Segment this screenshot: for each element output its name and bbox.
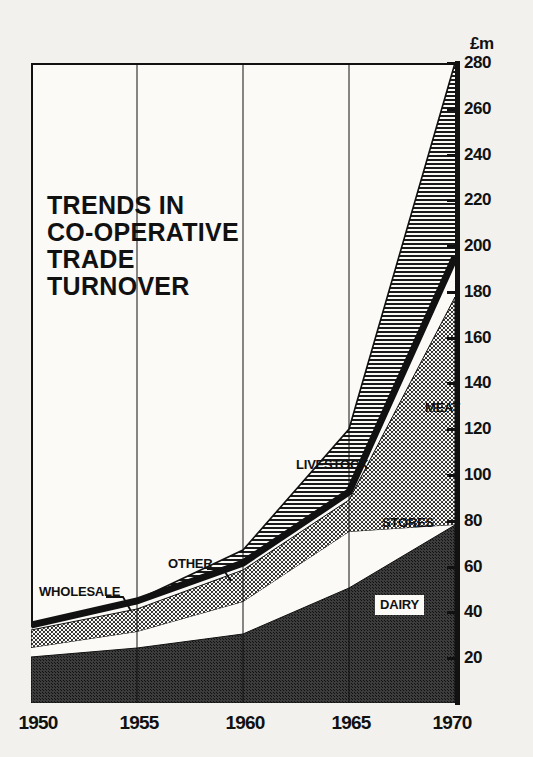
y-tick-20 — [447, 657, 456, 660]
y-tick-label-160: 160 — [464, 329, 491, 346]
y-tick-label-180: 180 — [464, 283, 491, 300]
y-tick-label-240: 240 — [464, 146, 491, 163]
y-tick-label-120: 120 — [464, 420, 491, 437]
chart-page: £m 280 260 240 220 200 180 160 140 120 1… — [0, 0, 533, 757]
y-tick-label-200: 200 — [464, 237, 491, 254]
y-tick-160 — [447, 337, 456, 340]
series-label-other: OTHER — [168, 556, 213, 571]
x-tick-label-1965: 1965 — [331, 712, 370, 734]
series-label-livestock: LIVESTOCK — [296, 457, 368, 472]
y-tick-label-20: 20 — [464, 649, 482, 666]
y-tick-label-280: 280 — [464, 54, 491, 71]
series-label-stores: STORES — [382, 515, 434, 530]
series-label-wholesale: WHOLESALE — [39, 584, 120, 599]
y-tick-label-80: 80 — [464, 512, 482, 529]
x-tick-label-1970: 1970 — [432, 712, 471, 734]
series-label-dairy: DAIRY — [375, 595, 424, 615]
y-tick-200 — [447, 245, 456, 248]
y-tick-label-260: 260 — [464, 100, 491, 117]
y-tick-80 — [447, 520, 456, 523]
x-tick-label-1950: 1950 — [18, 712, 57, 734]
y-tick-60 — [447, 566, 456, 569]
y-tick-120 — [447, 428, 456, 431]
y-tick-260 — [447, 108, 456, 111]
y-tick-240 — [447, 154, 456, 157]
y-tick-40 — [447, 611, 456, 614]
y-tick-label-140: 140 — [464, 374, 491, 391]
y-tick-280 — [447, 62, 456, 65]
y-tick-180 — [447, 291, 456, 294]
y-tick-label-100: 100 — [464, 466, 491, 483]
chart-title: TRENDS IN CO-OPERATIVE TRADE TURNOVER — [47, 192, 239, 300]
y-tick-label-60: 60 — [464, 558, 482, 575]
y-tick-140 — [447, 382, 456, 385]
x-tick-label-1955: 1955 — [119, 712, 158, 734]
y-tick-label-40: 40 — [464, 603, 482, 620]
y-tick-label-220: 220 — [464, 191, 491, 208]
series-label-meat: MEAT — [425, 400, 460, 415]
y-axis-unit-label: £m — [470, 34, 494, 54]
y-tick-100 — [447, 474, 456, 477]
y-tick-220 — [447, 199, 456, 202]
x-tick-label-1960: 1960 — [225, 712, 264, 734]
